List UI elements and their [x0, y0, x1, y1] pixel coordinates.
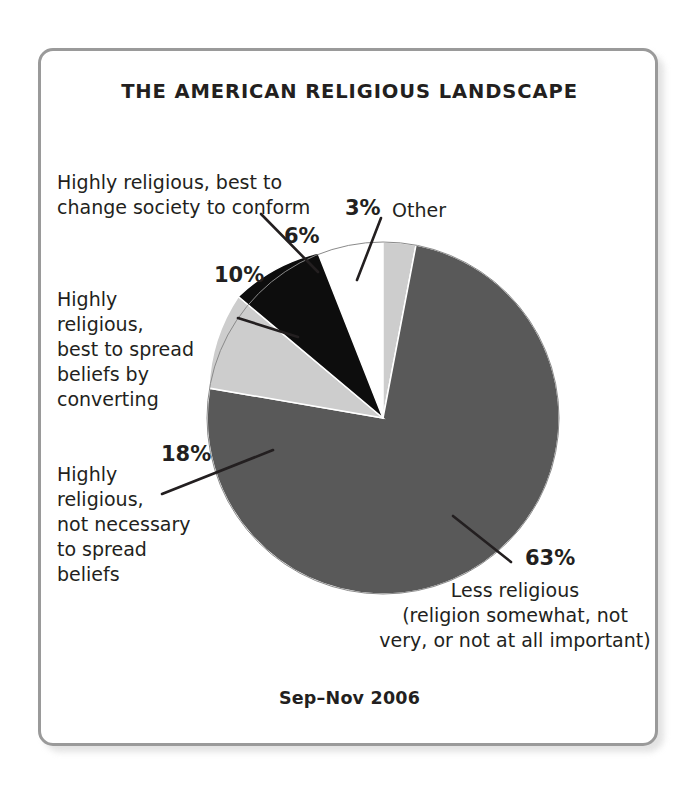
slice-label-change-society-to-conform: Highly religious, best to change society… — [57, 170, 347, 220]
slice-percent-less-religious: 63% — [525, 546, 575, 570]
chart-page: THE AMERICAN RELIGIOUS LANDSCAPE Highly — [0, 0, 699, 801]
slice-percent-spread-by-converting: 10% — [214, 263, 264, 287]
slice-label-spread-by-converting: Highly religious, best to spread beliefs… — [57, 287, 227, 412]
pie-slices — [207, 242, 559, 594]
slice-label-other: Other — [392, 198, 512, 223]
chart-footnote: Sep–Nov 2006 — [0, 688, 699, 708]
slice-percent-other: 3% — [345, 196, 381, 220]
slice-label-not-necessary-to-spread: Highly religious, not necessary to sprea… — [57, 462, 237, 587]
slice-label-less-religious: Less religious (religion somewhat, not v… — [375, 578, 655, 653]
slice-percent-change-society-to-conform: 6% — [284, 224, 320, 248]
leader-line-other — [357, 218, 381, 280]
